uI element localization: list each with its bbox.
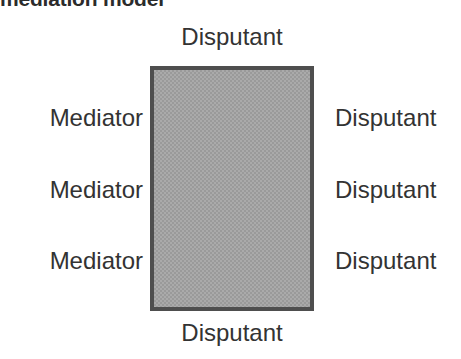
mediation-box <box>150 66 314 311</box>
label-top-disputant: Disputant <box>150 22 314 52</box>
label-right-disputant-2: Disputant <box>335 175 461 205</box>
label-left-mediator-2: Mediator <box>0 175 143 205</box>
label-left-mediator-1: Mediator <box>0 103 143 133</box>
label-bottom-disputant: Disputant <box>150 318 314 348</box>
mediation-model-figure: mediation model Disputant Mediator Media… <box>0 0 461 359</box>
figure-title: mediation model <box>0 0 300 11</box>
label-right-disputant-1: Disputant <box>335 103 461 133</box>
label-right-disputant-3: Disputant <box>335 246 461 276</box>
label-left-mediator-3: Mediator <box>0 246 143 276</box>
